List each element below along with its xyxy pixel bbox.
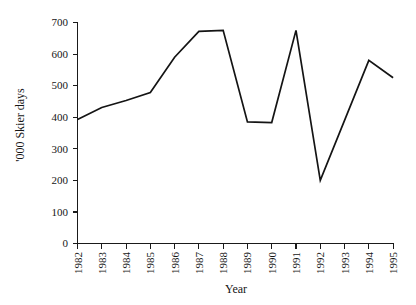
y-tick-label: 200 xyxy=(52,174,69,186)
x-tick-label: 1984 xyxy=(120,252,132,275)
y-tick-marks xyxy=(73,23,78,244)
x-tick-label: 1992 xyxy=(314,252,326,274)
x-tick-marks xyxy=(78,244,394,249)
data-line-skier-days xyxy=(78,30,394,180)
line-chart: 700 600 500 400 300 200 100 0 xyxy=(0,0,416,305)
x-tick-label: 1983 xyxy=(96,252,108,275)
x-tick-label: 1991 xyxy=(290,252,302,274)
chart-container: 700 600 500 400 300 200 100 0 xyxy=(0,0,416,305)
x-tick-label: 1993 xyxy=(339,252,351,275)
y-tick-label: 500 xyxy=(52,79,69,91)
x-axis-title: Year xyxy=(225,282,247,296)
x-tick-label: 1985 xyxy=(144,252,156,275)
x-tick-label: 1994 xyxy=(363,252,375,275)
x-tick-label: 1986 xyxy=(169,252,181,275)
y-tick-labels: 700 600 500 400 300 200 100 0 xyxy=(52,16,69,249)
y-tick-label: 0 xyxy=(63,237,69,249)
y-tick-label: 300 xyxy=(52,143,69,155)
x-tick-labels: 1982 1983 1984 1985 1986 1987 1988 1989 … xyxy=(72,252,400,275)
x-tick-label: 1989 xyxy=(241,252,253,275)
x-tick-label: 1982 xyxy=(72,252,84,274)
x-tick-label: 1988 xyxy=(217,252,229,275)
y-tick-label: 700 xyxy=(52,16,69,28)
x-tick-label: 1987 xyxy=(193,252,205,275)
x-tick-label: 1995 xyxy=(387,252,399,275)
y-tick-label: 600 xyxy=(52,48,69,60)
y-tick-label: 400 xyxy=(52,111,69,123)
axes-group xyxy=(78,22,395,244)
y-axis-title: '000 Skier days xyxy=(13,88,27,162)
x-tick-label: 1990 xyxy=(266,252,278,275)
y-tick-label: 100 xyxy=(52,206,69,218)
